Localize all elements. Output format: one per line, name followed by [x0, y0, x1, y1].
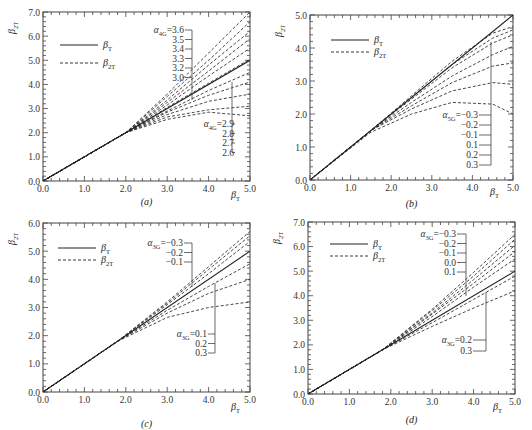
- y-tick-label: 5.0: [28, 247, 40, 257]
- y-tick-label: 6.0: [28, 32, 40, 42]
- annotation-label: 3.0: [172, 73, 184, 83]
- series-line-dashed: [310, 35, 513, 180]
- x-axis-label: βT: [492, 401, 502, 414]
- y-tick-label: 0.0: [293, 390, 305, 400]
- y-tick-label: 2.0: [293, 340, 305, 350]
- x-tick-label: 5.0: [244, 184, 256, 194]
- plot-area: [43, 231, 250, 392]
- annotation-label: −0.1: [439, 248, 456, 258]
- y-tick-label: 5.0: [295, 11, 307, 21]
- series-line-dashed: [308, 234, 515, 394]
- y-tick-label: 0.0: [295, 176, 307, 186]
- panel-d: 0.01.02.03.04.05.00.01.02.03.04.05.06.07…: [271, 218, 521, 427]
- x-tick-label: 5.0: [244, 395, 256, 405]
- figure: 0.01.02.03.04.05.00.01.02.03.04.05.06.07…: [0, 0, 532, 430]
- x-tick-label: 3.0: [426, 183, 438, 193]
- panel-label: (d): [406, 414, 418, 426]
- x-tick-label: 1.0: [343, 397, 355, 407]
- y-tick-label: 4.0: [295, 44, 307, 54]
- annotation-upper: α3G=−0.3−0.2−0.10.00.1: [420, 229, 466, 296]
- legend-label-dashed: β2T: [372, 250, 385, 263]
- y-tick-label: 2.0: [28, 331, 40, 341]
- y-axis-label: β2T: [6, 22, 19, 35]
- x-axis-label: βT: [230, 401, 240, 414]
- annotation-label: −0.2: [439, 239, 456, 249]
- legend-label-dashed: β2T: [102, 57, 115, 70]
- x-tick-label: 4.0: [203, 395, 215, 405]
- series-line-dashed: [308, 245, 515, 394]
- annotation-label: −0.2: [461, 120, 478, 130]
- annotation-label: 0.2: [195, 339, 207, 349]
- plot-area: [308, 234, 515, 394]
- x-tick-label: 1.0: [78, 395, 90, 405]
- plot-frame: [43, 12, 250, 181]
- series-line-dashed: [43, 31, 250, 181]
- y-tick-label: 3.0: [295, 77, 307, 87]
- legend-label-solid: βT: [100, 242, 110, 255]
- legend-label-dashed: β2T: [373, 46, 386, 59]
- y-tick-label: 1.0: [293, 365, 305, 375]
- legend-label-solid: βT: [102, 39, 112, 52]
- series-line-dashed: [308, 276, 515, 394]
- y-tick-label: 1.0: [295, 143, 307, 153]
- annotation-label: 0.1: [466, 140, 478, 150]
- plot-frame: [308, 222, 515, 394]
- x-axis-label: βT: [230, 189, 240, 202]
- y-tick-label: 4.0: [293, 291, 305, 301]
- annotation-label: 3.5: [172, 35, 184, 45]
- x-tick-label: 5.0: [507, 183, 519, 193]
- annotation-lower: α3G=0.10.20.3: [177, 283, 215, 358]
- y-tick-label: 1.0: [28, 359, 40, 369]
- y-tick-label: 4.0: [28, 275, 40, 285]
- y-axis-label: β2T: [271, 232, 284, 245]
- annotation-label: α3G=0.2: [442, 335, 472, 347]
- x-tick-label: 2.0: [385, 397, 397, 407]
- y-tick-label: 5.0: [293, 267, 305, 277]
- x-tick-label: 3.0: [161, 395, 173, 405]
- series-line-dashed: [310, 30, 513, 180]
- reference-line-solid: [308, 271, 515, 394]
- y-tick-label: 0.0: [28, 388, 40, 398]
- annotation-label: 0.3: [195, 348, 207, 358]
- annotation-lower: α5G=−0.3−0.2−0.10.10.20.3: [442, 42, 491, 170]
- panel-c: 0.01.02.03.04.05.00.01.02.03.04.05.06.0β…: [6, 219, 256, 430]
- annotation-upper: α3G=−0.3−0.2−0.1: [147, 238, 192, 287]
- y-tick-label: 3.0: [28, 303, 40, 313]
- x-axis-label: βT: [489, 186, 499, 199]
- series-line-dashed: [43, 94, 250, 181]
- x-tick-label: 3.0: [161, 184, 173, 194]
- x-tick-label: 1.0: [345, 183, 357, 193]
- y-tick-label: 1.0: [28, 152, 40, 162]
- legend: βTβ2T: [331, 34, 386, 59]
- panel-a: 0.01.02.03.04.05.00.01.02.03.04.05.06.07…: [6, 8, 256, 209]
- series-line-dashed: [310, 46, 513, 180]
- x-tick-label: 3.0: [426, 397, 438, 407]
- x-tick-label: 5.0: [509, 397, 521, 407]
- panel-label: (c): [141, 418, 153, 430]
- legend-label-dashed: β2T: [100, 254, 113, 267]
- annotation-label: −0.2: [166, 248, 183, 258]
- plot-area: [43, 12, 250, 181]
- panel-label: (b): [406, 198, 418, 210]
- annotation-label: 3.3: [172, 54, 184, 64]
- legend-label-solid: βT: [372, 238, 382, 251]
- x-tick-label: 4.0: [466, 183, 478, 193]
- y-tick-label: 2.0: [28, 128, 40, 138]
- annotation-label: 0.1: [444, 267, 456, 277]
- y-tick-label: 6.0: [293, 242, 305, 252]
- series-line-dashed: [43, 231, 250, 392]
- annotation-label: 3.2: [172, 63, 184, 73]
- series-line-dashed: [43, 236, 250, 392]
- y-tick-label: 2.0: [295, 110, 307, 120]
- series-line-dashed: [43, 12, 250, 181]
- series-line-dashed: [43, 264, 250, 392]
- annotation-label: 0.3: [466, 160, 478, 170]
- annotation-label: 0.2: [466, 150, 478, 160]
- legend: βTβ2T: [330, 238, 385, 263]
- y-tick-label: 0.0: [28, 177, 40, 187]
- annotation-label: 0.0: [444, 258, 456, 268]
- y-tick-label: 3.0: [28, 104, 40, 114]
- annotation-lower: α4G=2.92.82.72.6: [204, 82, 235, 158]
- series-line-dashed: [43, 39, 250, 181]
- annotation-label: 0.3: [460, 346, 472, 356]
